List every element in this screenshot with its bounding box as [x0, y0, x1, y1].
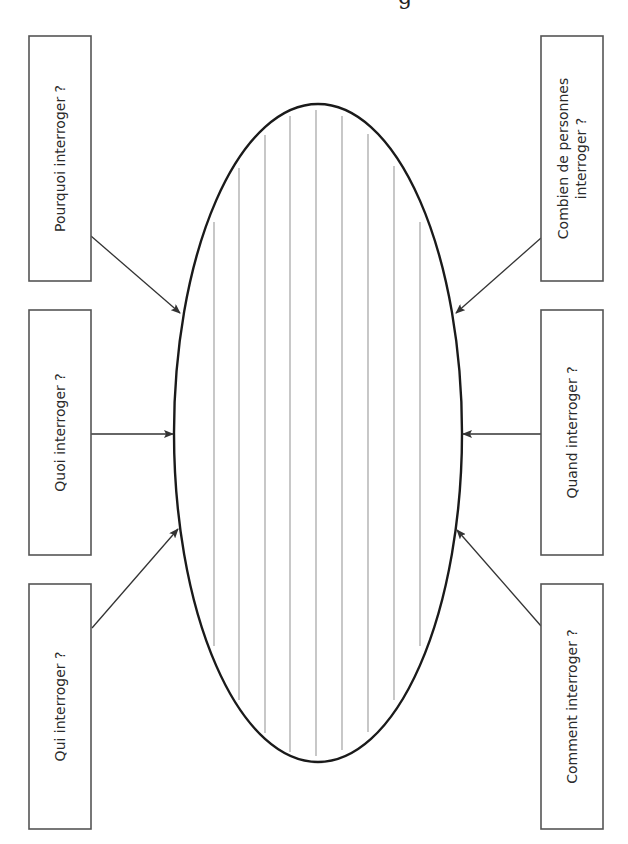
arrow-comment — [457, 530, 541, 626]
box-comment-interroger[interactable]: Comment interroger ? — [541, 584, 603, 829]
central-answer-ellipse[interactable] — [174, 104, 462, 762]
box-quand-interroger[interactable]: Quand interroger ? — [541, 310, 603, 555]
box-label: Quoi interroger ? — [52, 373, 68, 491]
box-label: Pourquoi interroger ? — [52, 85, 68, 232]
box-pourquoi-interroger[interactable]: Pourquoi interroger ? — [29, 36, 91, 281]
box-label: Quand interroger ? — [564, 366, 580, 498]
box-quoi-interroger[interactable]: Quoi interroger ? — [29, 310, 91, 555]
cropped-title-glyph: g — [398, 0, 412, 9]
box-label-line1: Combien de personnes — [555, 78, 571, 239]
ellipse-outline — [174, 104, 462, 762]
interview-planning-diagram: g Pourquoi interroger ? Quoi interroger … — [0, 0, 628, 844]
box-qui-interroger[interactable]: Qui interroger ? — [29, 584, 91, 829]
box-label: Comment interroger ? — [564, 629, 580, 784]
box-label-line2: interroger ? — [573, 118, 589, 200]
box-combien-de-personnes-interroger[interactable]: Combien de personnes interroger ? — [541, 36, 603, 281]
box-label: Qui interroger ? — [52, 652, 68, 762]
arrow-qui — [92, 529, 178, 628]
arrow-pourquoi — [91, 236, 180, 313]
arrow-combien — [456, 238, 541, 313]
